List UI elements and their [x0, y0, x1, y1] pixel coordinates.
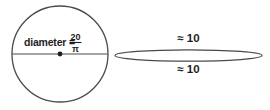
- circle-ellipse-figure: diameter = 20 π ≈ 10 ≈ 10: [0, 0, 270, 110]
- fraction-numerator: 20: [70, 32, 80, 42]
- fraction-denominator: π: [72, 44, 79, 54]
- ellipse-top-label: ≈ 10: [177, 32, 199, 44]
- ellipse-bottom-label: ≈ 10: [177, 63, 199, 75]
- diameter-label: diameter =: [24, 36, 75, 48]
- flattened-ellipse-shape: [115, 50, 262, 61]
- circle-center-dot: [58, 52, 63, 57]
- diagram-canvas: diameter = 20 π ≈ 10 ≈ 10: [0, 0, 270, 110]
